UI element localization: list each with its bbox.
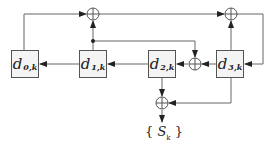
register-d1: d1,k xyxy=(79,50,107,78)
register-d2: d2,k xyxy=(148,50,176,78)
output-sequence-label: { Sk } xyxy=(145,124,183,142)
output-adder xyxy=(156,97,168,109)
register-d0: d0,k xyxy=(11,50,39,78)
middle-adder xyxy=(189,58,201,70)
register-d3: d3,k xyxy=(216,50,244,78)
feedback-shift-register-diagram: d0,k d1,k d2,k d3,k { Sk } xyxy=(0,0,273,148)
top-right-adder xyxy=(225,8,237,20)
top-left-adder xyxy=(87,8,99,20)
